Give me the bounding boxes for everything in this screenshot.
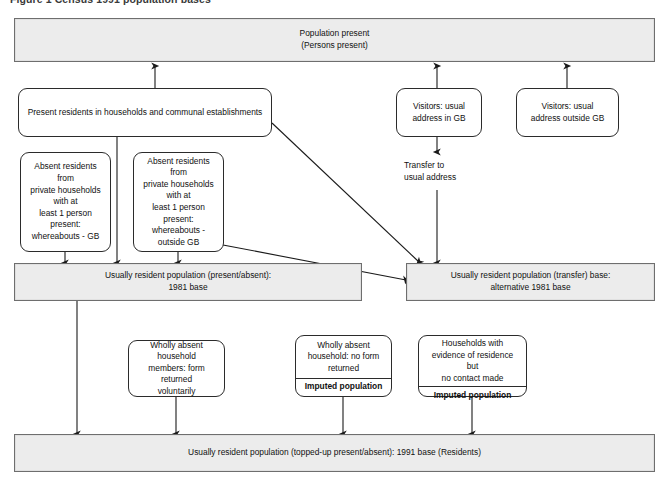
edge-present-residents-to-urp-transfer — [272, 123, 419, 262]
node-no-contact-made-body: Households with evidence of residence bu… — [419, 336, 526, 386]
node-population-present: Population present (Persons present) — [14, 18, 655, 62]
node-urp-present-absent-1981: Usually resident population (present/abs… — [14, 263, 362, 301]
node-wholly-absent-no-form: Wholly absent household: no form returne… — [295, 335, 392, 397]
node-visitors-in-gb-label: Visitors: usual address in GB — [408, 101, 469, 124]
node-urp-topped-up-1991: Usually resident population (topped-up p… — [14, 434, 655, 472]
node-present-residents: Present residents in households and comm… — [18, 88, 272, 137]
node-wholly-absent-no-form-label: Wholly absent household: no form returne… — [304, 340, 384, 375]
node-absent-residents-outside-gb-label: Absent residents from private households… — [134, 156, 223, 249]
diagram-canvas: Figure 1 Census 1991 population bases — [0, 0, 669, 483]
node-urp-transfer-base-label: Usually resident population (transfer) b… — [447, 270, 615, 293]
node-no-contact-made-footer: Imputed population — [419, 386, 526, 404]
node-present-residents-label: Present residents in households and comm… — [24, 107, 267, 119]
node-no-contact-made: Households with evidence of residence bu… — [418, 335, 527, 397]
node-no-contact-made-label: Households with evidence of residence bu… — [422, 338, 523, 384]
node-visitors-outside-gb: Visitors: usual address outside GB — [516, 88, 619, 137]
node-urp-transfer-base: Usually resident population (transfer) b… — [406, 263, 655, 301]
node-absent-residents-gb: Absent residents from private households… — [20, 152, 111, 252]
node-wholly-absent-no-form-footer: Imputed population — [296, 378, 391, 396]
node-visitors-in-gb: Visitors: usual address in GB — [396, 88, 482, 137]
node-absent-residents-gb-label: Absent residents from private households… — [21, 161, 110, 242]
figure-caption: Figure 1 Census 1991 population bases — [10, 0, 211, 5]
node-population-present-label: Population present (Persons present) — [296, 28, 374, 51]
node-urp-present-absent-1981-label: Usually resident population (present/abs… — [101, 270, 275, 293]
node-urp-topped-up-1991-label: Usually resident population (topped-up p… — [184, 447, 485, 459]
node-absent-residents-outside-gb: Absent residents from private households… — [133, 152, 224, 252]
node-wholly-absent-no-form-body: Wholly absent household: no form returne… — [296, 336, 391, 378]
node-wholly-absent-voluntary: Wholly absent household members: form re… — [128, 340, 225, 397]
label-transfer-to-usual-address: Transfer to usual address — [404, 160, 456, 183]
node-wholly-absent-voluntary-label: Wholly absent household members: form re… — [129, 340, 224, 398]
node-visitors-outside-gb-label: Visitors: usual address outside GB — [527, 101, 609, 124]
